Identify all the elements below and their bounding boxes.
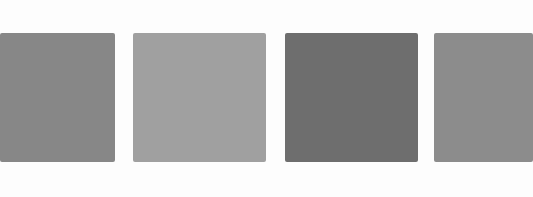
color-swatch[interactable] [0, 33, 115, 162]
color-swatch[interactable] [133, 33, 266, 162]
color-swatch[interactable] [285, 33, 418, 162]
color-swatch[interactable] [434, 33, 533, 162]
